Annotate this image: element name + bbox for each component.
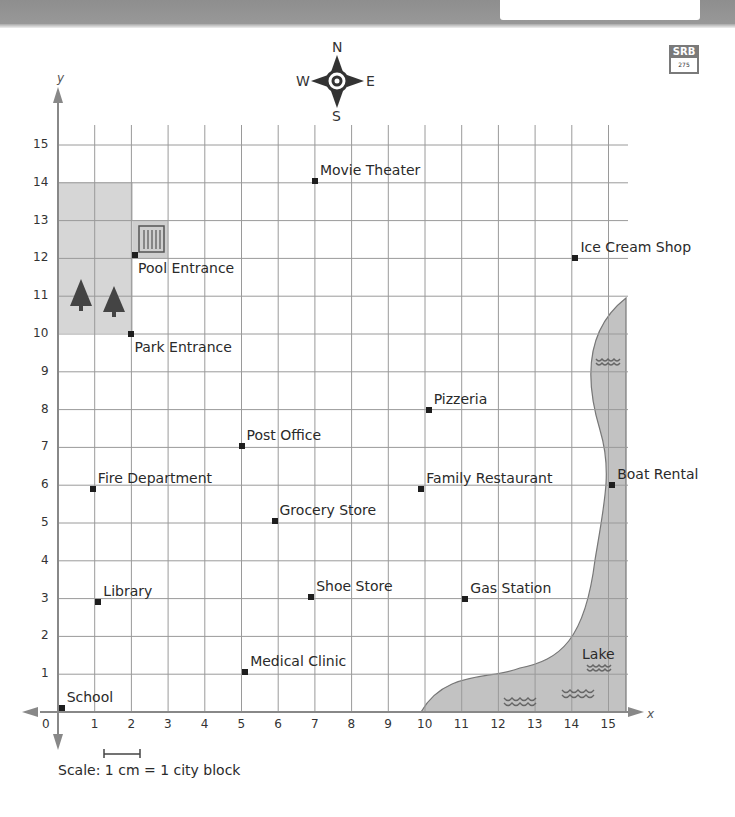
y-tick-label: 1 (41, 666, 49, 680)
y-tick-label: 7 (41, 439, 49, 453)
y-tick-label: 3 (41, 591, 49, 605)
x-tick-label: 5 (238, 717, 246, 731)
post-office-label: Post Office (247, 427, 322, 443)
gas-station-label: Gas Station (470, 580, 551, 596)
gas-station-marker[interactable] (462, 596, 468, 602)
x-axis-arrow-right (628, 707, 644, 717)
shoe-store-label: Shoe Store (316, 578, 392, 594)
compass-east: E (366, 73, 375, 89)
movie-theater-label: Movie Theater (320, 162, 420, 178)
x-tick-label: 6 (274, 717, 282, 731)
medical-clinic-label: Medical Clinic (250, 653, 346, 669)
y-tick-label: 6 (41, 477, 49, 491)
fire-department-marker[interactable] (90, 486, 96, 492)
y-axis-arrow-up (53, 87, 63, 103)
grid-lines (58, 125, 628, 712)
compass-south: S (332, 108, 341, 124)
x-axis-arrow-left (22, 707, 38, 717)
library-marker[interactable] (95, 599, 101, 605)
y-tick-label: 12 (33, 250, 48, 264)
shoe-store-marker[interactable] (308, 594, 314, 600)
x-tick-label: 11 (454, 717, 469, 731)
y-tick-label: 9 (41, 364, 49, 378)
y-tick-label: 11 (33, 288, 48, 302)
y-tick-label: 4 (41, 553, 49, 567)
y-tick-label: 15 (33, 137, 48, 151)
scale-bar (104, 749, 140, 758)
medical-clinic-marker[interactable] (242, 669, 248, 675)
x-tick-label: 4 (201, 717, 209, 731)
x-axis-label: x (646, 707, 655, 721)
lake-label: Lake (582, 646, 615, 662)
grocery-store-marker[interactable] (272, 518, 278, 524)
ice-cream-shop-marker[interactable] (572, 255, 578, 261)
scale-label: Scale: 1 cm = 1 city block (58, 762, 240, 778)
x-tick-label: 3 (164, 717, 172, 731)
ice-cream-shop-label: Ice Cream Shop (580, 239, 691, 255)
x-tick-label: 1 (91, 717, 99, 731)
y-tick-label: 2 (41, 628, 49, 642)
pizzeria-marker[interactable] (426, 407, 432, 413)
y-tick-label: 10 (33, 326, 48, 340)
y-axis-arrow-down (53, 734, 63, 750)
boat-rental-label: Boat Rental (617, 466, 698, 482)
y-tick-label: 8 (41, 402, 49, 416)
x-tick-label: 10 (417, 717, 432, 731)
x-tick-label: 13 (527, 717, 542, 731)
grocery-store-label: Grocery Store (280, 502, 377, 518)
y-tick-label: 14 (33, 175, 48, 189)
compass-west: W (296, 73, 310, 89)
post-office-marker[interactable] (239, 443, 245, 449)
x-tick-label: 2 (127, 717, 135, 731)
movie-theater-marker[interactable] (312, 178, 318, 184)
x-tick-label: 9 (384, 717, 392, 731)
fire-department-label: Fire Department (98, 470, 212, 486)
x-tick-label: 12 (490, 717, 505, 731)
pizzeria-label: Pizzeria (434, 391, 488, 407)
park-entrance-label: Park Entrance (134, 339, 231, 355)
x-tick-label: 8 (348, 717, 356, 731)
y-axis-label: y (56, 71, 65, 85)
library-label: Library (103, 583, 152, 599)
family-restaurant-label: Family Restaurant (426, 470, 552, 486)
origin-label: 0 (42, 717, 50, 731)
school-marker[interactable] (59, 705, 65, 711)
park-entrance-marker[interactable] (128, 331, 134, 337)
pool-entrance-label: Pool Entrance (138, 260, 234, 276)
family-restaurant-marker[interactable] (418, 486, 424, 492)
compass-rose-icon (311, 55, 364, 108)
x-tick-label: 7 (311, 717, 319, 731)
x-tick-label: 15 (601, 717, 616, 731)
boat-rental-marker[interactable] (609, 482, 615, 488)
pool-entrance-marker[interactable] (132, 252, 138, 258)
y-tick-label: 5 (41, 515, 49, 529)
compass-north: N (332, 39, 342, 55)
x-tick-label: 14 (564, 717, 579, 731)
y-tick-label: 13 (33, 213, 48, 227)
school-label: School (67, 689, 113, 705)
